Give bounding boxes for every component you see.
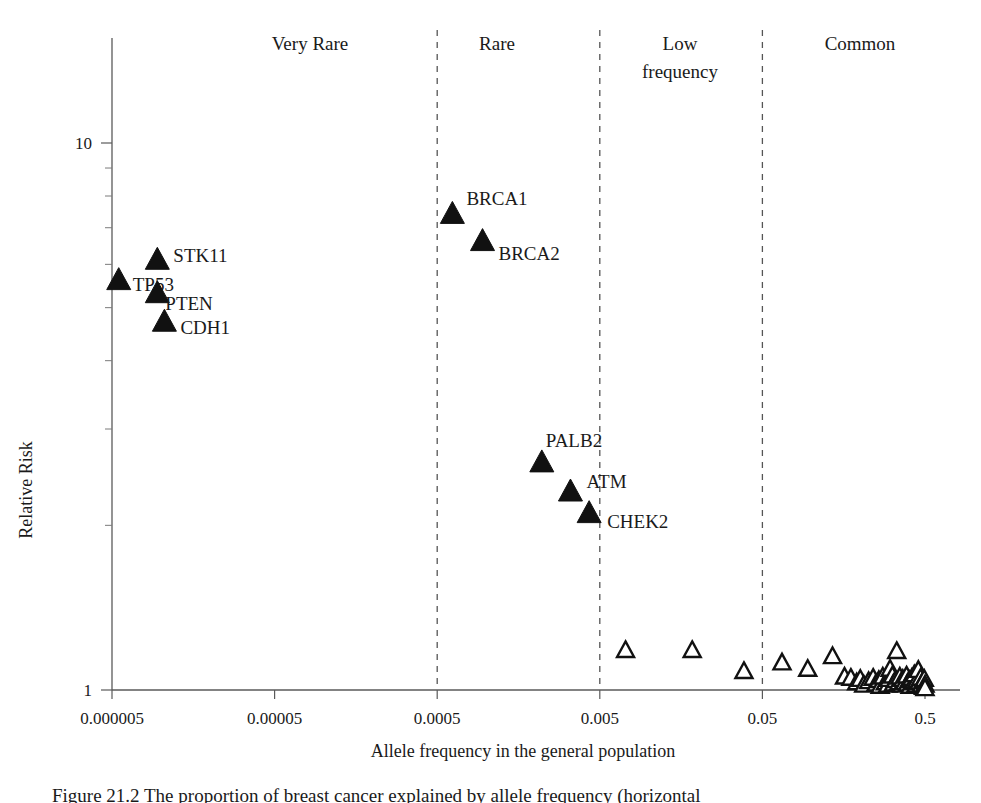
data-point-open-triangle[interactable]	[617, 641, 634, 657]
gene-label-chek2: CHEK2	[607, 511, 668, 532]
data-point-filled-triangle[interactable]	[530, 450, 554, 472]
x-tick-label: 0.5	[914, 709, 935, 728]
y-tick-label: 1	[84, 681, 93, 700]
data-point-open-triangle[interactable]	[824, 648, 841, 664]
category-label: Low	[663, 33, 698, 54]
x-tick-label: 0.005	[581, 709, 619, 728]
category-label: Rare	[479, 33, 515, 54]
x-tick-label: 0.00005	[247, 709, 302, 728]
gene-label-brca1: BRCA1	[466, 188, 527, 209]
gene-label-brca2: BRCA2	[499, 243, 560, 264]
data-point-open-triangle[interactable]	[799, 660, 816, 676]
data-point-filled-triangle[interactable]	[558, 479, 582, 501]
y-tick-label: 10	[75, 134, 92, 153]
gene-label-pten: PTEN	[165, 293, 213, 314]
data-point-open-triangle[interactable]	[735, 662, 752, 678]
data-point-filled-triangle[interactable]	[471, 229, 495, 251]
data-point-open-triangle[interactable]	[774, 654, 791, 670]
gene-label-palb2: PALB2	[546, 430, 602, 451]
x-tick-label: 0.05	[748, 709, 778, 728]
x-tick-label: 0.000005	[80, 709, 144, 728]
data-point-filled-triangle[interactable]	[440, 201, 464, 223]
figure-caption: Figure 21.2 The proportion of breast can…	[0, 781, 981, 803]
gene-label-atm: ATM	[586, 471, 626, 492]
gene-label-stk11: STK11	[173, 245, 227, 266]
data-point-open-triangle[interactable]	[888, 642, 905, 658]
x-axis-title: Allele frequency in the general populati…	[371, 741, 675, 761]
data-point-filled-triangle[interactable]	[577, 501, 601, 523]
category-label: Very Rare	[272, 33, 349, 54]
figure-caption-text: Figure 21.2 The proportion of breast can…	[0, 781, 981, 803]
y-axis-title: Relative Risk	[16, 441, 36, 539]
category-label: frequency	[642, 61, 718, 82]
x-tick-label: 0.0005	[414, 709, 461, 728]
data-point-open-triangle[interactable]	[684, 641, 701, 657]
figure-container: 1010.0000050.000050.00050.0050.050.5Very…	[0, 0, 981, 803]
scatter-chart: 1010.0000050.000050.00050.0050.050.5Very…	[0, 0, 981, 803]
data-point-filled-triangle[interactable]	[145, 247, 169, 269]
data-point-filled-triangle[interactable]	[107, 268, 131, 290]
gene-label-cdh1: CDH1	[180, 317, 230, 338]
category-label: Common	[825, 33, 896, 54]
